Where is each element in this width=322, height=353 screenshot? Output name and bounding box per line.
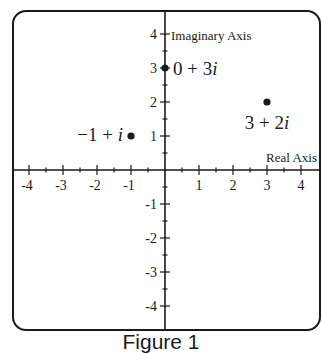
data-points: −1 + i0 + 3i3 + 2i [77, 58, 289, 145]
point-label: −1 + i [77, 124, 123, 145]
y-tick-label: -2 [145, 231, 157, 246]
figure-caption: Figure 1 [0, 331, 322, 353]
data-point [127, 132, 134, 139]
x-tick-label: 1 [196, 178, 203, 193]
y-tick-label: 4 [150, 27, 157, 42]
y-tick-label: -4 [145, 299, 157, 314]
y-tick-label: 3 [150, 61, 157, 76]
axes [13, 11, 320, 330]
point-label: 3 + 2i [245, 112, 290, 133]
point-label: 0 + 3i [173, 58, 218, 79]
x-tick-label: 4 [298, 178, 305, 193]
data-point [263, 98, 270, 105]
x-tick-label: -4 [21, 178, 33, 193]
x-tick-label: 3 [264, 178, 271, 193]
x-tick-label: -2 [89, 178, 101, 193]
x-tick-label: 2 [230, 178, 237, 193]
x-tick-label: -3 [55, 178, 67, 193]
imaginary-axis-label: Imaginary Axis [171, 28, 252, 43]
data-point [161, 64, 168, 71]
real-axis-label: Real Axis [266, 150, 317, 165]
x-tick-label: -1 [123, 178, 135, 193]
y-tick-label: 1 [150, 129, 157, 144]
y-tick-label: -1 [145, 197, 157, 212]
y-tick-label: -3 [145, 265, 157, 280]
y-tick-label: 2 [150, 95, 157, 110]
